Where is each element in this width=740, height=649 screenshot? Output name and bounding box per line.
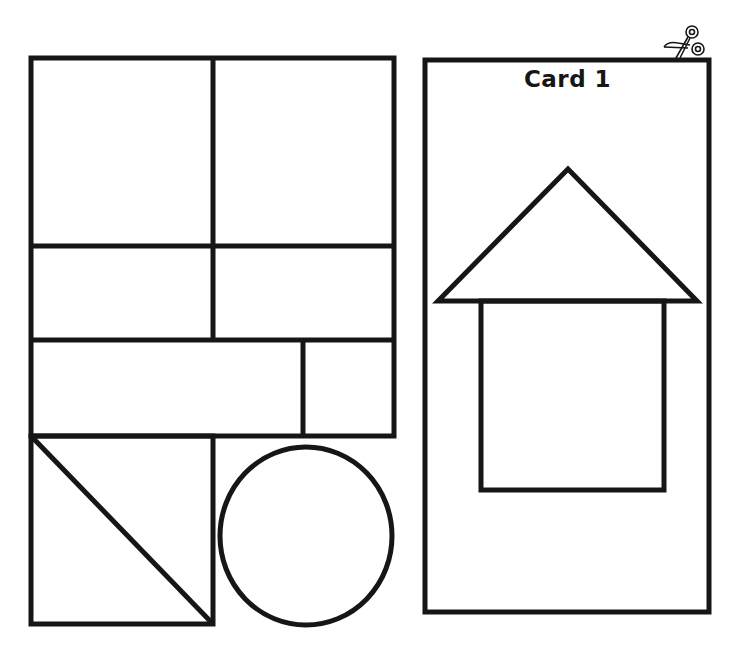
house-roof-triangle (438, 169, 697, 301)
circle-piece (220, 447, 392, 625)
house-body-square (481, 301, 664, 490)
left-shape-panel (31, 58, 394, 625)
card-title: Card 1 (425, 66, 710, 92)
scissors-icon (664, 26, 704, 58)
worksheet (0, 0, 740, 649)
card-1 (425, 60, 709, 612)
triangle-diagonal (31, 436, 213, 624)
